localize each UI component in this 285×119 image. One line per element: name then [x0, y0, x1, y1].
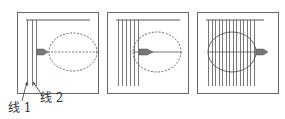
arrow-icon: [37, 49, 48, 55]
panel-1-frame: [18, 13, 99, 94]
label-line-1: 线 1: [8, 98, 31, 115]
arrow-icon: [139, 49, 153, 55]
arrow-icon: [256, 49, 268, 55]
label-line-2: 线 2: [40, 88, 63, 105]
